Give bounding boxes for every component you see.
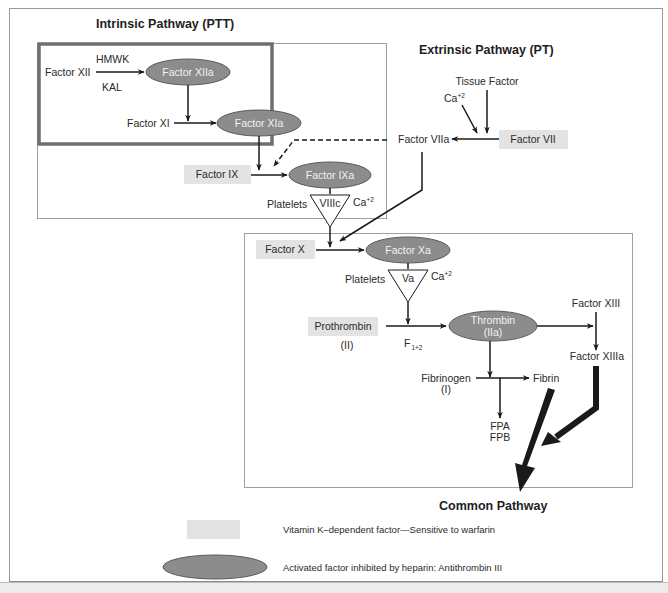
node-factor-ix-label: Factor IX bbox=[196, 168, 239, 180]
node-factor-xiia-label: Factor XIIa bbox=[162, 66, 214, 78]
intrinsic-pathway-title: Intrinsic Pathway (PTT) bbox=[96, 17, 234, 31]
label-platelets-viiic: Platelets bbox=[267, 198, 307, 210]
node-factor-vii-label: Factor VII bbox=[510, 133, 556, 145]
label-factor-viia: Factor VIIa bbox=[398, 133, 450, 145]
common-pathway-title: Common Pathway bbox=[439, 499, 547, 513]
label-factor-xiii: Factor XIII bbox=[572, 297, 620, 309]
label-platelets-va: Platelets bbox=[345, 273, 385, 285]
label-tissue-factor: Tissue Factor bbox=[455, 75, 519, 87]
node-prothrombin-label: Prothrombin bbox=[314, 320, 371, 332]
node-factor-xia-label: Factor XIa bbox=[235, 117, 284, 129]
label-fibrinogen-roman: (I) bbox=[441, 383, 451, 395]
node-thrombin-roman: (IIa) bbox=[484, 326, 503, 338]
label-f12: F1+2 bbox=[404, 337, 423, 351]
node-factor-xa-label: Factor Xa bbox=[385, 244, 431, 256]
label-fibrin: Fibrin bbox=[533, 372, 559, 384]
node-viiic-label: VIIIc bbox=[319, 197, 340, 209]
thick-arrow-xiiia bbox=[556, 366, 596, 437]
label-ca-extrinsic: Ca+2 bbox=[444, 92, 465, 104]
arrow-ca-extrinsic bbox=[462, 105, 477, 133]
legend-heparin-text: Activated factor inhibited by heparin: A… bbox=[283, 562, 502, 573]
label-hmwk: HMWK bbox=[96, 53, 129, 65]
node-factor-ixa-label: Factor IXa bbox=[306, 169, 355, 181]
label-ca-va: Ca+2 bbox=[431, 270, 452, 282]
legend-vitk-swatch bbox=[187, 520, 240, 539]
legend-heparin-swatch bbox=[163, 555, 267, 579]
label-fpb: FPB bbox=[490, 431, 510, 443]
node-va-label: Va bbox=[402, 272, 414, 284]
label-prothrombin-roman: (II) bbox=[341, 339, 354, 351]
node-factor-x-label: Factor X bbox=[265, 243, 305, 255]
node-thrombin-label: Thrombin bbox=[471, 314, 516, 326]
extrinsic-pathway-title: Extrinsic Pathway (PT) bbox=[419, 43, 554, 57]
label-factor-xiiia: Factor XIIIa bbox=[570, 350, 624, 362]
label-factor-xii: Factor XII bbox=[45, 66, 91, 78]
label-kal: KAL bbox=[102, 81, 122, 93]
label-factor-xi: Factor XI bbox=[127, 117, 170, 129]
label-ca-viiic: Ca+2 bbox=[353, 196, 374, 208]
legend-vitk-text: Vitamin K–dependent factor—Sensitive to … bbox=[283, 524, 495, 535]
